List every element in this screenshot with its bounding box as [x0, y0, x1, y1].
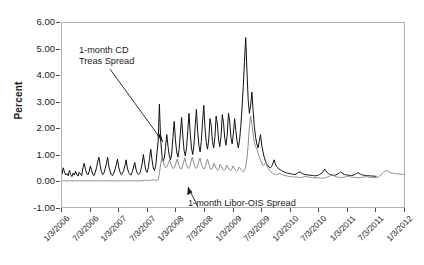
y-tick-mark	[56, 155, 60, 156]
y-tick-mark	[56, 49, 60, 50]
x-axis-tick-labels: 1/3/20067/3/20061/3/20077/3/20071/3/2008…	[0, 212, 424, 265]
y-tick-label: 4.00	[21, 70, 55, 80]
y-tick-mark	[56, 181, 60, 182]
annotation-libor-ois-line1: 1-month Libor-OIS Spread	[188, 198, 296, 209]
series-line-libor-ois-spread	[62, 116, 405, 181]
cd-treas-arrow-line	[110, 69, 163, 142]
y-tick-mark	[56, 102, 60, 103]
annotation-cd-treas-line2: Treas Spread	[79, 56, 134, 67]
chart-figure: Percent 6.005.004.003.002.001.000.00-1.0…	[0, 0, 424, 265]
annotation-cd-treas-spread: 1-month CD Treas Spread	[79, 45, 134, 67]
y-tick-label: 5.00	[21, 44, 55, 54]
y-tick-label: 1.00	[21, 150, 55, 160]
annotation-libor-ois-spread: 1-month Libor-OIS Spread	[188, 198, 296, 209]
annotation-arrows	[110, 69, 198, 207]
annotation-cd-treas-line1: 1-month CD	[79, 45, 134, 56]
y-tick-mark	[56, 22, 60, 23]
y-tick-label: 2.00	[21, 123, 55, 133]
y-tick-mark	[56, 75, 60, 76]
y-tick-label: 0.00	[21, 176, 55, 186]
y-tick-label: 6.00	[21, 17, 55, 27]
y-tick-mark	[56, 128, 60, 129]
y-tick-label: 3.00	[21, 97, 55, 107]
y-tick-mark	[56, 208, 60, 209]
